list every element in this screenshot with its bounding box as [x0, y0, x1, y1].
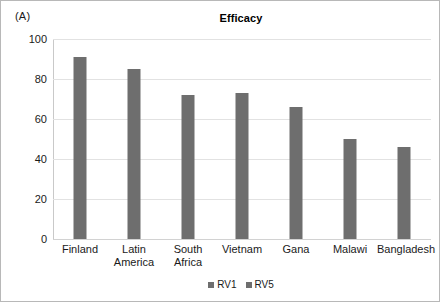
bar[interactable]	[74, 57, 87, 239]
bar[interactable]	[398, 147, 411, 239]
y-axis-tick-label: 80	[3, 73, 47, 85]
y-axis-tick-label: 20	[3, 193, 47, 205]
x-axis-category-label: Finland	[53, 243, 107, 256]
efficacy-bar-chart-figure: (A) Efficacy 020406080100 FinlandLatin A…	[0, 0, 440, 302]
bar-slot	[269, 39, 323, 239]
x-axis-category-label: Latin America	[107, 243, 161, 269]
bar-slot	[215, 39, 269, 239]
legend-item[interactable]: RV1	[208, 279, 236, 290]
x-axis-category-label: South Africa	[161, 243, 215, 269]
bar-slot	[107, 39, 161, 239]
legend-label: RV5	[255, 279, 274, 290]
y-axis-tick-labels: 020406080100	[1, 39, 47, 239]
bar-slot	[323, 39, 377, 239]
legend-label: RV1	[217, 279, 236, 290]
panel-label: (A)	[15, 10, 30, 22]
bar[interactable]	[182, 95, 195, 239]
bar[interactable]	[128, 69, 141, 239]
bar-slot	[377, 39, 431, 239]
chart-title: Efficacy	[53, 12, 429, 24]
legend-swatch-icon	[246, 282, 252, 288]
bar[interactable]	[344, 139, 357, 239]
bar-slot	[161, 39, 215, 239]
chart-legend: RV1RV5	[53, 279, 429, 290]
y-axis-tick-label: 40	[3, 153, 47, 165]
x-axis-category-label: Malawi	[323, 243, 377, 256]
x-axis-category-label: Vietnam	[215, 243, 269, 256]
x-axis-category-label: Gana	[269, 243, 323, 256]
bar[interactable]	[290, 107, 303, 239]
gridline	[53, 239, 431, 240]
bar[interactable]	[236, 93, 249, 239]
x-axis-category-labels: FinlandLatin AmericaSouth AfricaVietnamG…	[53, 243, 431, 277]
y-axis-tick-label: 60	[3, 113, 47, 125]
legend-item[interactable]: RV5	[246, 279, 274, 290]
bar-slot	[53, 39, 107, 239]
x-axis-category-label: Bangladesh	[377, 243, 431, 256]
y-axis-tick-label: 0	[3, 233, 47, 245]
legend-swatch-icon	[208, 282, 214, 288]
y-axis-tick-label: 100	[3, 33, 47, 45]
bar-series-rv1	[53, 39, 431, 239]
plot-area	[53, 39, 431, 239]
